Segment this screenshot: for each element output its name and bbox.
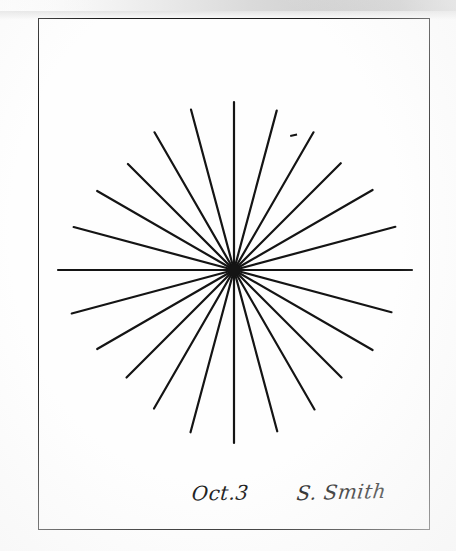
scanned-page: Oct.3 S. Smith — [0, 0, 456, 551]
date-annotation: Oct.3 — [191, 480, 250, 505]
signature-annotation: S. Smith — [295, 479, 387, 505]
figure-border-frame — [38, 18, 430, 530]
scan-artifact-band — [0, 0, 456, 11]
